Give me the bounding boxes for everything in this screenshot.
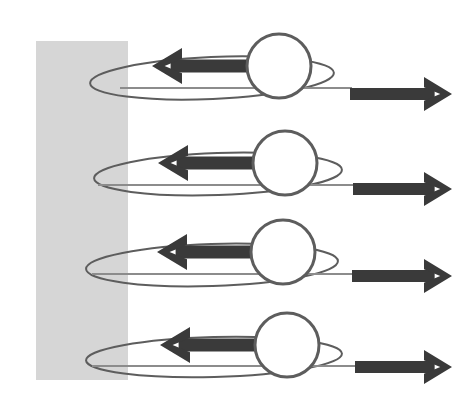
- arrow-right-shaft: [355, 361, 435, 373]
- particle-circle: [251, 220, 315, 284]
- figure-canvas: [0, 0, 468, 417]
- particle-circle: [253, 131, 317, 195]
- wall-surface: [36, 41, 128, 380]
- particle-circle: [255, 313, 319, 377]
- particle-circle: [247, 34, 311, 98]
- arrow-right-shaft: [353, 183, 435, 195]
- arrow-right-shaft: [352, 270, 435, 282]
- orbital-motion-diagram: [0, 0, 468, 417]
- arrow-right-shaft: [350, 88, 435, 100]
